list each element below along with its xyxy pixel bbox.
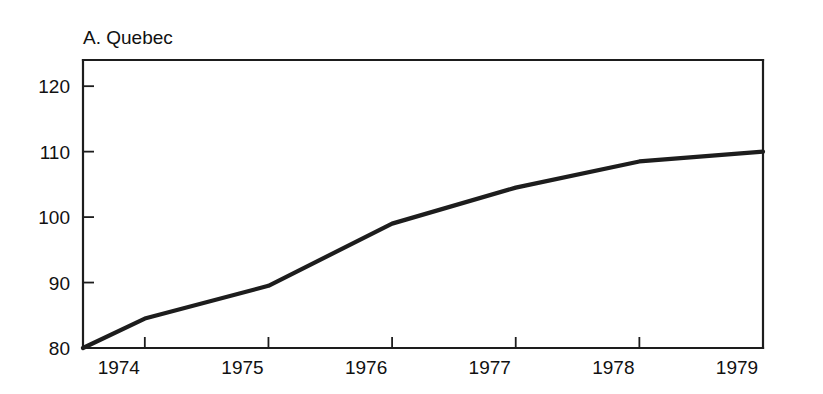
x-tick-label: 1977: [469, 357, 511, 378]
x-axis-tick-labels: 197419751976197719781979: [98, 357, 758, 378]
y-tick-label: 100: [38, 207, 70, 228]
data-series-line: [83, 152, 763, 348]
y-tick-label: 90: [49, 273, 70, 294]
x-axis-ticks: [145, 337, 763, 348]
page-title: A. Quebec: [83, 27, 173, 48]
y-axis-ticks: [83, 86, 94, 348]
x-tick-label: 1976: [345, 357, 387, 378]
line-chart: A. Quebec 8090100110120 1974197519761977…: [0, 0, 823, 394]
y-axis-tick-labels: 8090100110120: [38, 76, 70, 359]
x-tick-label: 1978: [592, 357, 634, 378]
y-tick-label: 110: [40, 142, 70, 163]
x-tick-label: 1974: [98, 357, 141, 378]
plot-frame: [83, 60, 763, 348]
x-tick-label: 1975: [221, 357, 263, 378]
y-tick-label: 80: [49, 338, 70, 359]
y-tick-label: 120: [38, 76, 70, 97]
x-tick-label: 1979: [716, 357, 758, 378]
chart-figure: A. Quebec 8090100110120 1974197519761977…: [0, 0, 823, 394]
